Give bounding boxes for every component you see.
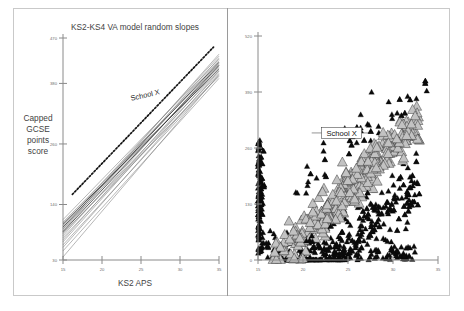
scatter-marker-black [394,228,400,233]
scatter-marker-black [379,190,385,195]
scatter-marker-black [412,249,418,254]
scatter-marker-black [354,140,360,145]
left-panel-x-tick-label: 30 [178,267,183,272]
right-panel-x-tick-label: 30 [391,267,396,272]
scatter-marker-black [267,228,273,233]
left-panel-school-x-label: School X [130,87,161,102]
scatter-marker-black [347,232,353,237]
figure-root: KS2-KS4 VA model random slopes CappedGCS… [0,0,464,311]
scatter-marker-black [396,216,402,221]
left-panel-slope-line [63,59,219,219]
left-panel-x-axis-label: KS2 APS [118,278,153,288]
left-panel-slope-line [63,75,219,245]
left-panel-plot: KS2-KS4 VA model random slopes CappedGCS… [13,8,227,296]
scatter-marker-black [386,99,392,104]
right-panel-plot: 01302603905201520253035 School X [228,8,450,296]
left-panel-x-tick-label: 20 [100,267,105,272]
left-panel-slope-line [63,54,219,229]
scatter-marker-black [424,88,430,93]
left-panel-x-tick-label: 35 [217,267,222,272]
left-panel-y-tick-label: 30 [52,258,57,263]
scatter-marker-black [391,182,397,187]
scatter-marker-black [413,151,419,156]
scatter-marker-black [308,171,314,176]
left-panel-school-x-line [72,47,213,194]
scatter-marker-black [265,255,271,260]
scatter-marker-black [381,221,387,226]
scatter-marker-black [305,179,311,184]
left-panel-y-axis-label-line: points [27,135,49,145]
right-panel: 01302603905201520253035 School X [228,8,450,296]
scatter-marker-black [303,190,309,195]
left-panel-slope-line [63,78,219,251]
left-panel-x-tick-label: 25 [139,267,144,272]
left-panel-annotation-school-x: School X [130,87,161,102]
left-panel-x-tick-label: 15 [61,267,66,272]
scatter-marker-black [346,151,352,156]
scatter-marker-black [374,236,380,241]
scatter-marker-black [361,137,367,142]
right-panel-x-tick-label: 20 [301,267,306,272]
left-panel-y-axis-label-line: GCSE [26,124,50,134]
scatter-marker-black [376,217,382,222]
left-panel-title: KS2-KS4 VA model random slopes [71,22,199,32]
right-panel-y-tick-label: 0 [250,258,253,263]
left-panel-y-axis-label: CappedGCSEpointsscore [23,113,52,156]
left-panel-slope-line [63,65,219,232]
right-panel-x-tick-label: 15 [256,267,261,272]
left-panel-y-tick-label: 470 [50,36,58,41]
scatter-marker-black [414,96,420,101]
scatter-marker-black [321,148,327,153]
right-panel-y-tick-label: 260 [245,146,253,151]
scatter-marker-black [376,124,382,129]
scatter-marker-black [358,112,364,117]
left-panel-slope-line [63,56,219,225]
scatter-marker-black [322,157,328,162]
left-panel-y-axis-label-line: Capped [23,113,52,123]
left-panel-y-axis-label-line: score [28,146,49,156]
right-panel-y-tick-label: 130 [245,202,253,207]
scatter-marker-black [397,97,403,102]
scatter-marker-black [405,219,411,224]
scatter-marker-black [403,226,409,231]
right-panel-x-tick-label: 35 [436,267,441,272]
scatter-marker-black [321,140,327,145]
left-panel-y-tick-label: 380 [50,81,58,86]
scatter-marker-black [368,201,374,206]
scatter-marker-black [387,227,393,232]
scatter-marker-black [402,110,408,115]
scatter-marker-black [386,188,392,193]
scatter-marker-gray [337,157,347,166]
right-panel-scatter-points [255,78,429,263]
scatter-marker-black [406,208,412,213]
right-panel-y-tick-label: 520 [245,34,253,39]
scatter-marker-black [304,163,310,168]
scatter-marker-black [349,142,355,147]
left-panel-slope-line [63,74,219,257]
left-panel-slope-line [63,63,219,236]
scatter-marker-black [399,244,405,249]
right-panel-school-x-label: School X [326,129,356,138]
scatter-marker-black [314,175,320,180]
left-panel-y-tick-label: 260 [50,142,58,147]
scatter-marker-black [411,244,417,249]
scatter-marker-black [394,110,400,115]
left-panel-y-tick-label: 140 [50,202,58,207]
scatter-marker-gray [284,216,294,225]
right-panel-x-tick-label: 25 [346,267,351,272]
scatter-marker-black [412,192,418,197]
scatter-marker-black [369,89,375,94]
scatter-marker-black [414,159,420,164]
left-panel-slope-line [63,62,219,227]
left-panel: KS2-KS4 VA model random slopes CappedGCS… [13,8,227,296]
scatter-marker-black [365,211,371,216]
scatter-marker-black [417,191,423,196]
left-panel-slope-lines [63,47,219,257]
scatter-marker-black [390,173,396,178]
scatter-marker-black [389,112,395,117]
scatter-marker-black [401,182,407,187]
right-panel-y-tick-label: 390 [245,90,253,95]
